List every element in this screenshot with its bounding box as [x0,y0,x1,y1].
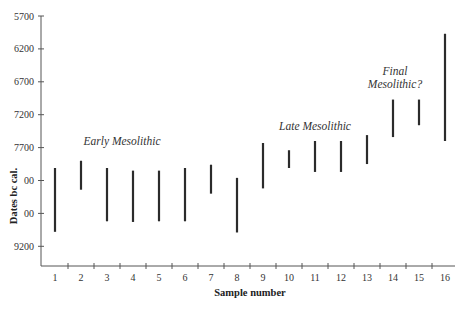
x-tick-label: 13 [362,272,372,283]
x-tick-label: 10 [284,272,294,283]
y-tick-label: 00 [24,208,34,219]
x-tick-label: 7 [209,272,214,283]
period-annotation: Final [382,65,408,77]
x-tick-label: 15 [414,272,424,283]
x-tick-label: 1 [53,272,58,283]
y-tick-label: 5700 [14,11,34,22]
y-tick-label: 7700 [14,142,34,153]
x-tick-label: 16 [440,272,450,283]
x-tick-label: 12 [336,272,346,283]
x-axis: 12345678910111213141516 [41,263,455,283]
y-axis: 5700620067007200770000009200 [14,11,44,267]
y-tick-label: 9200 [14,241,34,252]
period-annotations: Early MesolithicLate MesolithicFinalMeso… [83,65,423,148]
x-tick-label: 8 [235,272,240,283]
period-annotation: Mesolithic? [367,78,423,90]
y-tick-label: 6700 [14,76,34,87]
x-tick-label: 4 [131,272,136,283]
x-tick-label: 3 [105,272,110,283]
period-annotation: Late Mesolithic [278,120,351,132]
x-axis-title: Sample number [214,287,286,298]
period-annotation: Early Mesolithic [83,135,161,148]
y-tick-label: 00 [24,175,34,186]
y-axis-title: Dates bc cal. [8,167,19,224]
x-tick-label: 14 [388,272,398,283]
x-tick-label: 5 [157,272,162,283]
date-range-bars [55,34,445,233]
x-tick-label: 6 [183,272,188,283]
x-tick-label: 9 [261,272,266,283]
date-range-chart: 5700620067007200770000009200 12345678910… [0,0,464,309]
x-tick-label: 2 [79,272,84,283]
x-tick-label: 11 [310,272,320,283]
y-tick-label: 7200 [14,109,34,120]
y-tick-label: 6200 [14,43,34,54]
